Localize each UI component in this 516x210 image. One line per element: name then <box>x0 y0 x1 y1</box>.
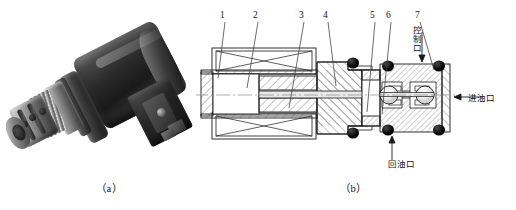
label-oil-inlet-port: 进油口 <box>468 94 495 103</box>
callout-number-3: 3 <box>299 10 304 20</box>
callout-number-6: 6 <box>386 10 391 20</box>
valve-cross-section-drawing <box>196 0 516 178</box>
subfigure-a-photo-panel <box>0 0 196 178</box>
callout-number-4: 4 <box>323 10 328 20</box>
o-ring-seal-4 <box>382 125 394 136</box>
label-control-port: 控制口 <box>411 26 420 53</box>
o-ring-seal-2 <box>347 128 359 139</box>
label-oil-return-port: 回油口 <box>388 160 415 169</box>
o-ring-seal-5 <box>433 61 445 72</box>
valve-cartridge-section <box>362 64 450 132</box>
figure-solenoid-cartridge-valve: （a） （b） <box>0 0 516 210</box>
o-ring-seal-6 <box>433 125 445 136</box>
solenoid-valve-photograph <box>12 18 190 168</box>
armature-chamber <box>213 74 259 114</box>
o-ring-seal-3 <box>382 61 394 72</box>
o-ring-seal-1 <box>347 58 359 69</box>
caption-subfigure-b: （b） <box>340 180 367 195</box>
callout-number-7: 7 <box>415 10 420 20</box>
callout-number-5: 5 <box>370 10 375 20</box>
callout-number-2: 2 <box>253 10 258 20</box>
callout-number-1: 1 <box>220 10 225 20</box>
caption-subfigure-a: （a） <box>96 180 122 195</box>
subfigure-b-diagram-panel: 1 2 3 4 5 6 7 控制口 进油口 回油口 <box>196 0 516 178</box>
